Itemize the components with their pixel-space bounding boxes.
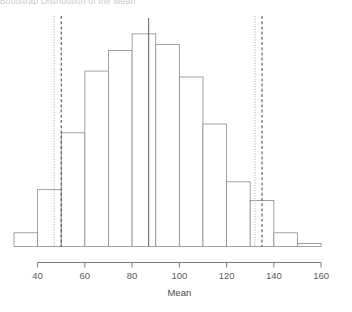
x-axis: [38, 263, 321, 268]
histogram-canvas: 406080100120140160 Mean: [0, 0, 352, 312]
histogram-bar: [179, 77, 203, 247]
x-axis-tick-label: 80: [127, 270, 138, 281]
histogram-bar: [274, 233, 298, 247]
x-axis-tick-label: 160: [313, 270, 329, 281]
histogram-bar: [61, 133, 85, 247]
x-axis-tick-label: 140: [266, 270, 282, 281]
histogram-bar: [250, 200, 274, 246]
x-axis-title: Mean: [167, 287, 191, 298]
histogram-bars: [14, 34, 321, 247]
histogram-bar: [108, 51, 132, 247]
histogram-bar: [14, 233, 38, 247]
x-axis-tick-labels: 406080100120140160: [32, 270, 329, 281]
histogram-bar: [227, 182, 251, 247]
x-axis-tick-label: 100: [171, 270, 187, 281]
histogram-bar: [85, 71, 109, 246]
x-axis-tick-label: 40: [32, 270, 43, 281]
histogram-bar: [156, 45, 180, 247]
x-axis-tick-label: 60: [80, 270, 91, 281]
histogram-bar: [38, 190, 62, 247]
histogram-bar: [297, 244, 321, 247]
histogram-bar: [132, 34, 156, 247]
histogram-bar: [203, 124, 227, 247]
x-axis-tick-label: 120: [219, 270, 235, 281]
histogram-plot: Bootstrap Distribution of the Mean 40608…: [0, 0, 352, 312]
